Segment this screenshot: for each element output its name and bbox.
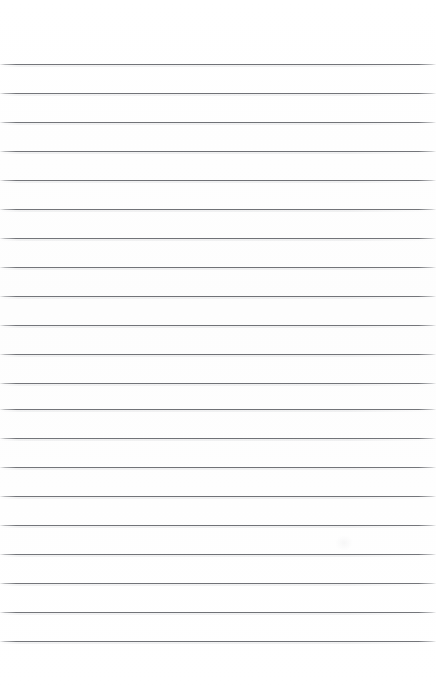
notebook-page [0, 0, 436, 687]
writing-area[interactable] [0, 0, 436, 687]
